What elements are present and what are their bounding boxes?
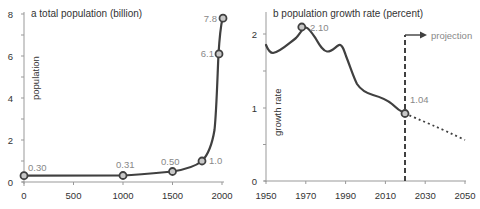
panel-a-marker-1500 xyxy=(169,168,176,175)
panel-a-ytick-0: 0 xyxy=(8,177,13,188)
panel-a-ytick-4: 4 xyxy=(8,93,13,104)
panel-b-xtick-2010: 2010 xyxy=(375,190,396,201)
panel-b-label-1.04: 1.04 xyxy=(410,94,429,105)
panel-a-label-1.0: 1.0 xyxy=(209,155,222,166)
panel-b-growth-rate: 0 1 2 1950 1970 1990 2010 2030 2050 b po… xyxy=(252,8,476,201)
panel-b-growth-rate-line xyxy=(266,27,405,113)
panel-a-x-ticks xyxy=(24,182,222,186)
panel-a-xtick-1000: 1000 xyxy=(112,190,133,201)
panel-a-label-0.30: 0.30 xyxy=(28,162,47,173)
panel-a-xtick-2000: 2000 xyxy=(211,190,232,201)
panel-a-xtick-500: 500 xyxy=(66,190,82,201)
panel-b-ytick-0: 0 xyxy=(252,176,257,187)
panel-b-xtick-2050: 2050 xyxy=(454,190,475,201)
panel-b-xtick-1990: 1990 xyxy=(335,190,356,201)
panel-b-projection-line xyxy=(405,114,465,141)
panel-b-marker-1968 xyxy=(298,24,305,31)
panel-a-marker-1000 xyxy=(120,172,127,179)
panel-a-xtick-1500: 1500 xyxy=(162,190,183,201)
panel-b-projection-label: projection xyxy=(431,30,472,41)
panel-a-label-0.50: 0.50 xyxy=(161,156,180,167)
panel-a-ytick-8: 8 xyxy=(8,9,13,20)
panel-a-label-6.1: 6.1 xyxy=(201,48,214,59)
panel-a-total-population: 0 2 4 6 8 0 500 1000 1500 2000 a total p… xyxy=(8,8,233,201)
panel-a-ytick-6: 6 xyxy=(8,51,13,62)
panel-a-marker-2000 xyxy=(216,50,223,57)
panel-a-population-line xyxy=(24,18,223,176)
panel-a-label-0.31: 0.31 xyxy=(116,159,135,170)
panel-b-xtick-1970: 1970 xyxy=(295,190,316,201)
panel-b-y-label: growth rate xyxy=(272,88,283,136)
panel-a-marker-0 xyxy=(21,172,28,179)
panel-b-title: b population growth rate (percent) xyxy=(273,8,423,19)
panel-b-label-2.10: 2.10 xyxy=(310,22,329,33)
panel-b-ytick-1: 1 xyxy=(252,103,257,114)
panel-a-xtick-0: 0 xyxy=(21,190,26,201)
panel-a-y-label: population xyxy=(30,56,41,100)
panel-b-marker-2020 xyxy=(402,110,409,117)
panel-b-xtick-2030: 2030 xyxy=(415,190,436,201)
panel-a-title: a total population (billion) xyxy=(31,8,142,19)
panel-a-ytick-2: 2 xyxy=(8,135,13,146)
panel-a-label-7.8: 7.8 xyxy=(204,13,217,24)
panel-b-xtick-1950: 1950 xyxy=(255,190,276,201)
arrow-right-icon xyxy=(420,32,427,39)
panel-a-marker-1800 xyxy=(199,158,206,165)
panel-b-ytick-2: 2 xyxy=(252,29,257,40)
figure: 0 2 4 6 8 0 500 1000 1500 2000 a total p… xyxy=(0,0,480,209)
panel-a-marker-2020 xyxy=(220,15,227,22)
